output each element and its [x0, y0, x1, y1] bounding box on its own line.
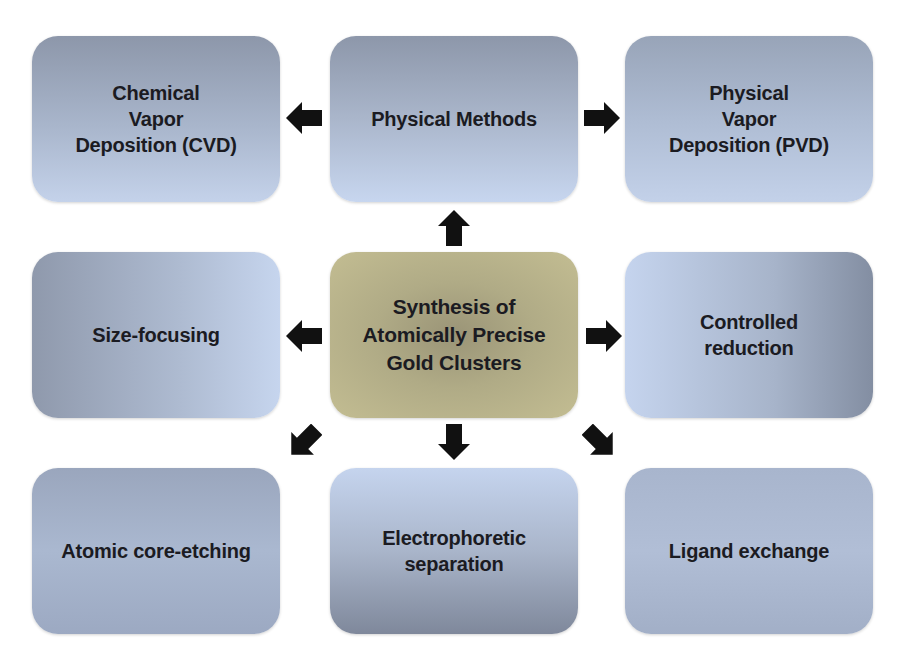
node-chemical-vapor-deposition: Chemical Vapor Deposition (CVD) — [32, 36, 280, 202]
arrow-left-icon — [286, 318, 322, 354]
center-label: Synthesis of Atomically Precise Gold Clu… — [350, 293, 557, 377]
node-center-synthesis: Synthesis of Atomically Precise Gold Clu… — [330, 252, 578, 418]
node-ligand-exchange: Ligand exchange — [625, 468, 873, 634]
node-controlled-reduction: Controlled reduction — [625, 252, 873, 418]
node-label: Size-focusing — [80, 322, 231, 348]
node-label: Physical Vapor Deposition (PVD) — [657, 80, 841, 158]
arrow-right-icon — [586, 318, 622, 354]
node-label: Electrophoretic separation — [370, 525, 538, 577]
arrow-down-right-icon — [582, 424, 618, 460]
node-atomic-core-etching: Atomic core-etching — [32, 468, 280, 634]
node-label: Chemical Vapor Deposition (CVD) — [63, 80, 248, 158]
node-label: Controlled reduction — [688, 309, 810, 361]
node-label: Physical Methods — [359, 106, 549, 132]
node-electrophoretic-separation: Electrophoretic separation — [330, 468, 578, 634]
node-size-focusing: Size-focusing — [32, 252, 280, 418]
node-label: Atomic core-etching — [49, 538, 263, 564]
arrow-right-icon — [584, 100, 620, 136]
arrow-left-icon — [286, 100, 322, 136]
arrow-up-icon — [436, 210, 472, 246]
node-physical-methods: Physical Methods — [330, 36, 578, 202]
node-label: Ligand exchange — [657, 538, 841, 564]
arrow-down-left-icon — [286, 424, 322, 460]
arrow-down-icon — [436, 424, 472, 460]
node-physical-vapor-deposition: Physical Vapor Deposition (PVD) — [625, 36, 873, 202]
